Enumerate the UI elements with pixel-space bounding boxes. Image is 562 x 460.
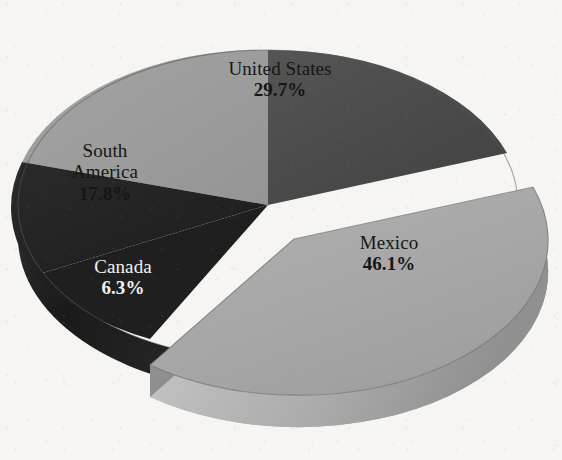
slice-label-mexico: Mexico 46.1% bbox=[322, 232, 456, 275]
pie-chart-figure: United States 29.7% South America 17.8% … bbox=[0, 0, 562, 460]
slice-label-south-america: South America 17.8% bbox=[42, 140, 168, 204]
slice-label-south-america-name-line2: America bbox=[42, 161, 168, 182]
slice-label-south-america-value: 17.8% bbox=[42, 183, 168, 204]
slice-label-canada: Canada 6.3% bbox=[62, 256, 184, 299]
slice-label-canada-name: Canada bbox=[62, 256, 184, 277]
slice-label-canada-value: 6.3% bbox=[62, 277, 184, 298]
slice-label-mexico-name: Mexico bbox=[322, 232, 456, 253]
slice-label-mexico-value: 46.1% bbox=[322, 253, 456, 274]
slice-label-united-states: United States 29.7% bbox=[192, 58, 368, 101]
slice-label-united-states-name: United States bbox=[192, 58, 368, 79]
slice-label-united-states-value: 29.7% bbox=[192, 79, 368, 100]
slice-label-south-america-name-line1: South bbox=[42, 140, 168, 161]
